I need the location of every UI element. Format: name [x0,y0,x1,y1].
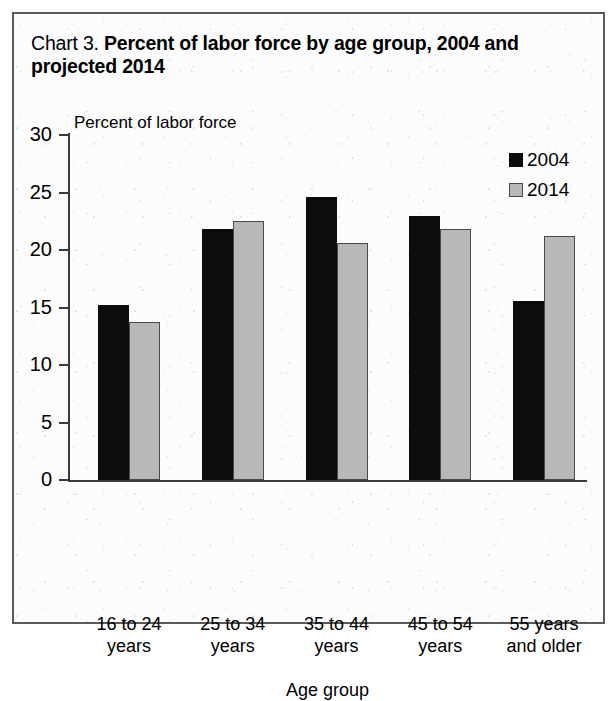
bar-2014-5[interactable] [544,236,575,480]
y-tick-5: 5 [59,422,68,424]
bar-2014-2[interactable] [233,221,264,480]
chart-title: Chart 3. Percent of labor force by age g… [31,32,576,78]
bar-2004-2[interactable] [202,229,233,480]
x-axis-line [68,480,587,482]
bar-2004-1[interactable] [98,305,129,480]
bar-group-4 [409,135,471,480]
y-tick-20: 20 [59,249,68,251]
y-tick-25: 25 [59,192,68,194]
y-tick-label-0: 0 [41,468,52,491]
y-tick-10: 10 [59,364,68,366]
y-tick-0: 0 [59,479,68,481]
bar-2004-5[interactable] [513,301,544,480]
y-tick-label-30: 30 [30,123,52,146]
y-tick-15: 15 [59,307,68,309]
bar-group-1 [98,135,160,480]
bar-group-3 [306,135,368,480]
y-tick-label-20: 20 [30,238,52,261]
y-tick-label-10: 10 [30,353,52,376]
bar-group-2 [202,135,264,480]
bar-2014-1[interactable] [129,322,160,480]
category-label-5-line-1: 55 years [478,614,610,636]
bar-2004-4[interactable] [409,216,440,481]
bar-group-5 [513,135,575,480]
bar-2004-3[interactable] [306,197,337,480]
y-tick-30: 30 [59,134,68,136]
chart-title-main: Percent of labor force by age group, 200… [31,32,519,77]
y-tick-label-15: 15 [30,296,52,319]
y-tick-label-5: 5 [41,411,52,434]
x-axis-title: Age group [68,680,587,701]
bar-2014-4[interactable] [440,229,471,480]
plot-area: 051015202530 16 to 24years25 to 34years3… [68,135,587,480]
chart-frame: Chart 3. Percent of labor force by age g… [12,12,605,624]
category-label-5-line-2: and older [478,636,610,658]
y-axis-line [68,133,70,482]
bar-2014-3[interactable] [337,243,368,480]
category-label-5: 55 yearsand older [478,614,610,658]
y-tick-label-25: 25 [30,181,52,204]
y-axis-title: Percent of labor force [74,113,237,133]
chart-title-prefix: Chart 3. [31,32,99,54]
